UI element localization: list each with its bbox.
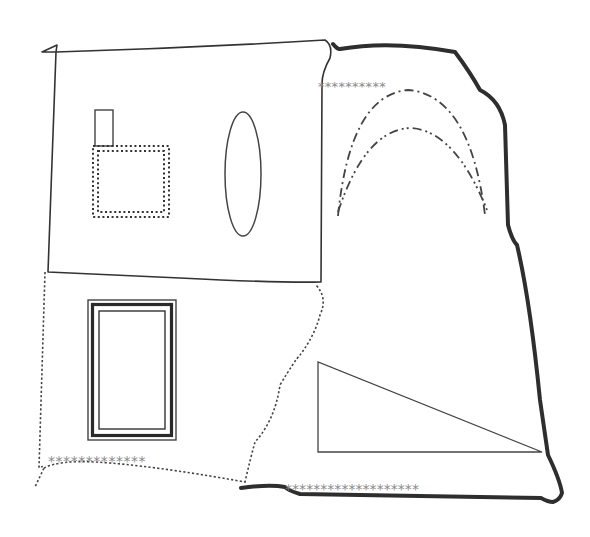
outer-dash-dot-arc: [338, 90, 485, 216]
dotted-square: [93, 146, 169, 217]
inner-dash-dot-dot-arc: [338, 128, 487, 212]
top-left-region-outline: [42, 40, 331, 282]
asterisk-row-top: **********: [318, 80, 386, 93]
asterisk-row-bottom-left: *************: [48, 454, 146, 468]
tall-ellipse: [225, 112, 261, 236]
triple-frame-rectangle: [88, 300, 176, 440]
asterisk-row-bottom-right: *******************: [285, 482, 419, 496]
small-rectangle: [95, 110, 113, 146]
right-triangle: [318, 362, 542, 452]
right-region-thick-outline: [241, 44, 562, 502]
